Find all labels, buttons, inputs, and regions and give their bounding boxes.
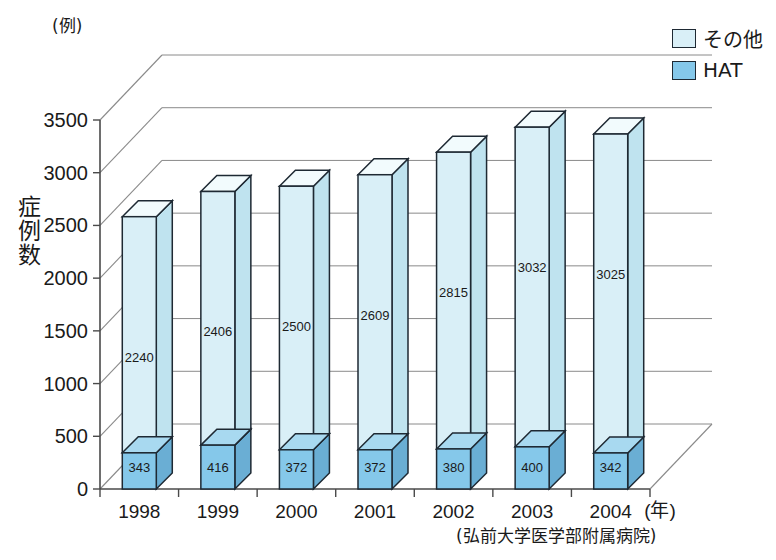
bar-value-label-other: 2609 (361, 308, 390, 323)
y-tick-label: 0 (77, 478, 88, 500)
floor-right-edge (650, 424, 712, 489)
bar-segment-other[interactable] (122, 217, 156, 453)
bar-segment-other-side (471, 136, 487, 449)
bar-segment-other-side (235, 175, 251, 445)
bar-value-label-other: 2406 (203, 324, 232, 339)
x-tick-label: 1999 (197, 501, 239, 522)
legend-item-hat[interactable]: HAT (672, 58, 776, 82)
legend-item-other[interactable]: その他 (672, 24, 776, 53)
bar-segment-other[interactable] (515, 127, 549, 447)
bar-segment-other[interactable] (594, 134, 628, 453)
bar-segment-other-side (313, 170, 329, 450)
bar-value-label-other: 3032 (518, 260, 547, 275)
x-tick-label: 2003 (511, 501, 553, 522)
y-tick-labels-group: 0500100015002000250030003500 (44, 109, 89, 500)
chart-canvas: 0500100015002000250030003500 19981999200… (0, 0, 776, 560)
bar-value-label-other: 2500 (282, 319, 311, 334)
bars-group (122, 111, 643, 489)
bar-value-label-other: 2815 (439, 285, 468, 300)
y-axis-unit-wrap: (例) (52, 12, 82, 37)
y-axis-title: 症例数 (12, 196, 46, 268)
bar-value-label-hat: 372 (364, 460, 386, 475)
bar-segment-other[interactable] (437, 152, 471, 449)
bar-segment-other-side (156, 201, 172, 453)
bar-value-label-other: 2240 (125, 350, 154, 365)
legend-label-hat: HAT (703, 58, 742, 82)
gridline-depth (100, 108, 162, 173)
y-tick-label: 2000 (44, 267, 89, 289)
chart-container: 0500100015002000250030003500 19981999200… (0, 0, 776, 560)
source-note: (弘前大学医学部附属病院) (456, 522, 656, 547)
x-tick-labels-group: 1998199920002001200220032004(年) (118, 500, 676, 522)
bar-value-label-other: 3025 (596, 267, 625, 282)
x-tick-label: 2001 (354, 501, 396, 522)
y-tick-label: 1500 (44, 320, 89, 342)
gridline-depth (100, 55, 162, 120)
legend-label-other: その他 (703, 24, 763, 53)
bar-segment-other-side (628, 118, 644, 453)
bar-segment-other-side (392, 159, 408, 450)
y-axis-unit-label: (例) (52, 16, 82, 36)
legend-swatch-other (672, 29, 696, 48)
x-tick-label: 2002 (432, 501, 474, 522)
bar-segment-other[interactable] (279, 186, 313, 450)
y-tick-label: 3500 (44, 109, 89, 131)
legend: その他 HAT (672, 24, 776, 87)
y-tick-label: 3000 (44, 162, 89, 184)
bar-value-label-hat: 400 (521, 460, 543, 475)
bar-value-label-hat: 416 (207, 460, 229, 475)
y-tick-label: 1000 (44, 373, 89, 395)
bar-value-label-hat: 343 (128, 460, 150, 475)
bar-value-label-hat: 380 (443, 460, 465, 475)
y-tick-label: 2500 (44, 214, 89, 236)
y-tick-label: 500 (55, 425, 88, 447)
x-tick-label: 1998 (118, 501, 160, 522)
bar-segment-other[interactable] (201, 191, 235, 445)
legend-swatch-hat (672, 61, 696, 80)
x-axis-unit-label: (年) (644, 500, 676, 521)
bar-segment-other-side (549, 111, 565, 447)
x-tick-label: 2004 (590, 501, 633, 522)
x-tick-label: 2000 (275, 501, 317, 522)
bar-value-label-hat: 342 (600, 460, 622, 475)
bar-value-label-hat: 372 (286, 460, 308, 475)
